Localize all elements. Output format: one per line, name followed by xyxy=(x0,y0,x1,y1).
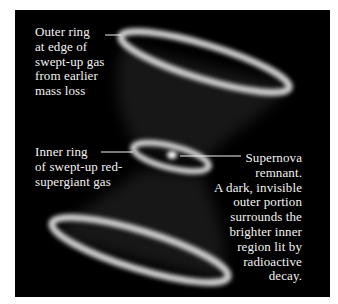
remnant-label-line: radioactive xyxy=(214,255,302,270)
inner-ring-label: Inner ring of swept-up red- supergiant g… xyxy=(35,145,123,189)
outer-ring-label-line: Outer ring xyxy=(35,25,104,40)
outer-ring-label-line: swept-up gas xyxy=(35,55,104,70)
inner-ring-label-line: of swept-up red- xyxy=(35,160,123,175)
outer-ring-label: Outer ring at edge of swept-up gas from … xyxy=(35,25,104,99)
remnant-label-line: surrounds the xyxy=(214,210,302,225)
remnant-label-line: decay. xyxy=(214,269,302,284)
remnant-label-line: outer portion xyxy=(214,195,302,210)
inner-ring-label-line: Inner ring xyxy=(35,145,123,160)
outer-ring-label-line: from earlier xyxy=(35,69,104,84)
remnant-label-line: remnant. xyxy=(214,166,302,181)
outer-ring-label-line: mass loss xyxy=(35,84,104,99)
figure-panel: Outer ring at edge of swept-up gas from … xyxy=(15,10,330,297)
remnant-label-line: A dark, invisible xyxy=(214,181,302,196)
inner-ring-label-line: supergiant gas xyxy=(35,175,123,190)
remnant-label-line: Supernova xyxy=(214,151,302,166)
outer-ring-label-line: at edge of xyxy=(35,40,104,55)
remnant-label-line: brighter inner xyxy=(214,225,302,240)
supernova-remnant-dot xyxy=(167,151,177,159)
remnant-label-line: region lit by xyxy=(214,240,302,255)
remnant-label: Supernova remnant. A dark, invisible out… xyxy=(214,151,302,284)
